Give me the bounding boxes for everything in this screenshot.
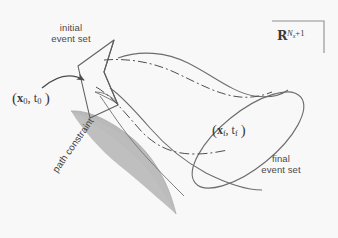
final-event-set-label: final event set: [245, 153, 317, 175]
ambient-space-exponent: Nx+1: [287, 28, 305, 38]
final-event-set-label-line1: final: [245, 153, 317, 164]
initial-point-comma: ,: [28, 91, 31, 105]
real-numbers-symbol: R: [277, 28, 287, 43]
initial-event-set-label: initial event set: [34, 22, 108, 44]
initial-point-label: (x0, t0 ): [12, 89, 50, 107]
initial-point-close-paren: ): [45, 89, 50, 106]
final-point-time-subscript: f: [235, 129, 238, 138]
exponent-plus-one: +1: [295, 28, 304, 38]
final-point-comma: ,: [226, 123, 229, 137]
final-event-set-label-line2: event set: [245, 164, 317, 175]
initial-event-set-label-line2: event set: [34, 33, 108, 44]
initial-point-time-subscript: 0: [37, 96, 41, 106]
ambient-space-label: RNx+1: [277, 28, 305, 44]
figure-canvas: initial event set final event set path c…: [0, 0, 338, 238]
final-point-label: (xf, tf ): [212, 122, 246, 139]
initial-event-set-label-line1: initial: [34, 22, 108, 33]
final-point-close-paren: ): [241, 122, 246, 138]
